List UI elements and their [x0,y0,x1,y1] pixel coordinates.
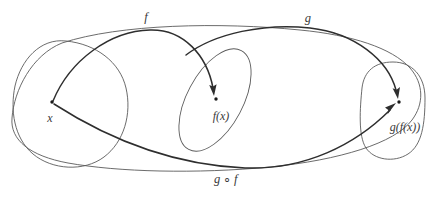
point-fx-label: f(x) [213,110,230,122]
point-gfx-dot [397,100,400,103]
point-x-dot [50,100,53,103]
point-x-label: x [47,112,52,124]
composition-right-function: f [234,172,238,186]
diagram-canvas [0,0,439,197]
arrow-f-curve [53,30,213,101]
point-fx-dot [214,97,217,100]
composition-diagram: f g x f(x) g(f(x)) g∘f [0,0,439,197]
codomain-set-right-blob [360,62,425,159]
arrow-g-compose-f-label: g∘f [214,173,238,186]
composition-left-function: g [214,172,221,186]
arrow-f-label: f [144,11,148,24]
domain-set-blob [13,41,128,167]
point-gfx-label: g(f(x)) [390,121,421,133]
arrow-g-curve [186,27,396,90]
composition-operator-icon: ∘ [223,172,231,186]
arrow-g-label: g [305,12,311,25]
